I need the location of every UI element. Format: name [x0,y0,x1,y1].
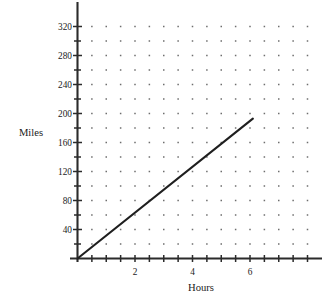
grid-dot [206,214,208,216]
grid-dot [278,142,280,144]
grid-dot [192,113,194,115]
grid-dot [106,156,108,158]
grid-dot [134,98,136,100]
grid-dot [177,229,179,231]
grid-dot [264,229,266,231]
grid-dot [206,200,208,202]
grid-dot [221,55,223,57]
grid-dot [235,185,237,187]
grid-dot [120,200,122,202]
grid-dot [292,69,294,71]
grid-dot [292,84,294,86]
grid-dot [235,142,237,144]
grid-dot [91,214,93,216]
y-tick-label-320: 320 [58,22,72,32]
grid-dot [278,229,280,231]
grid-dot [192,142,194,144]
grid-dot [192,26,194,28]
grid-dot [206,84,208,86]
grid-dot [91,185,93,187]
grid-dot [106,69,108,71]
grid-dot [249,185,251,187]
grid-dot [206,229,208,231]
grid-dot [292,26,294,28]
grid-dot [163,113,165,115]
grid-dot [149,229,151,231]
grid-dot [221,69,223,71]
grid-dot [221,98,223,100]
grid-dot [307,214,309,216]
grid-dot [221,84,223,86]
grid-dot [206,69,208,71]
grid-dot [192,171,194,173]
grid-dot [177,142,179,144]
y-tick-label-80: 80 [63,196,73,206]
grid-dot [120,55,122,57]
grid-dot [235,214,237,216]
grid-dot [206,113,208,115]
grid-dot [134,200,136,202]
grid-dot [235,69,237,71]
grid-dot [206,40,208,42]
grid-dot [177,171,179,173]
grid-dot [120,156,122,158]
grid-dot [91,142,93,144]
grid-dot [292,55,294,57]
line-chart-plot: 320 280 240 200 160 120 80 40 2 4 6 Mile… [0,0,327,295]
grid-dot [278,98,280,100]
grid-dot [149,69,151,71]
grid-dot [307,113,309,115]
grid-dot [134,214,136,216]
grid-dot [264,69,266,71]
grid-dot [278,26,280,28]
grid-dot [249,55,251,57]
grid-dot [106,243,108,245]
grid-dot [163,171,165,173]
grid-dot [149,156,151,158]
grid-dot-lattice [91,26,308,245]
grid-dot [149,171,151,173]
grid-dot [106,171,108,173]
grid-dot [264,113,266,115]
grid-dot [307,98,309,100]
grid-dot [91,26,93,28]
grid-dot [106,113,108,115]
grid-dot [106,26,108,28]
grid-dot [91,98,93,100]
grid-dot [221,185,223,187]
grid-dot [192,55,194,57]
grid-dot [177,40,179,42]
grid-dot [149,113,151,115]
grid-dot [106,127,108,129]
grid-dot [163,26,165,28]
y-axis-title: Miles [19,127,43,138]
x-tick-label-4: 4 [190,267,195,277]
grid-dot [249,243,251,245]
grid-dot [292,200,294,202]
grid-dot [292,127,294,129]
grid-dot [192,229,194,231]
grid-dot [149,26,151,28]
grid-dot [134,84,136,86]
grid-dot [163,185,165,187]
grid-dot [134,185,136,187]
grid-dot [235,200,237,202]
grid-dot [292,113,294,115]
grid-dot [91,113,93,115]
grid-dot [163,40,165,42]
grid-dot [91,229,93,231]
grid-dot [235,229,237,231]
grid-dot [106,229,108,231]
grid-dot [177,200,179,202]
grid-dot [192,185,194,187]
grid-dot [307,55,309,57]
grid-dot [134,113,136,115]
grid-dot [91,171,93,173]
grid-dot [235,26,237,28]
grid-dot [221,156,223,158]
grid-dot [149,40,151,42]
grid-dot [292,142,294,144]
grid-dot [192,243,194,245]
grid-dot [221,127,223,129]
grid-dot [120,185,122,187]
